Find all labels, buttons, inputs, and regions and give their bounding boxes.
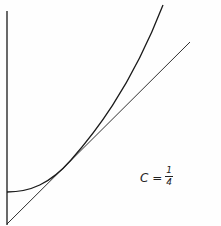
fraction-denominator: 4 (166, 178, 172, 187)
constant-label: C = (140, 171, 162, 185)
plot-area (0, 0, 221, 226)
fraction-numerator: 1 (166, 166, 172, 175)
diagram: C = 1 4 (0, 0, 221, 226)
constant-fraction: 1 4 (165, 166, 173, 187)
tangent-line (7, 42, 190, 224)
parabola-curve (7, 5, 163, 192)
